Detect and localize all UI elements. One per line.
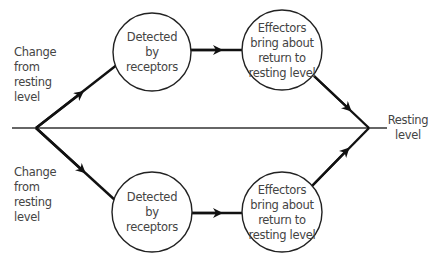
upper-effector-text: Effectors bring about return to resting … <box>240 21 324 81</box>
lower-change-label: Change from resting level <box>14 165 56 225</box>
upper-receptor-text: Detected by receptors <box>113 30 191 75</box>
diagram-canvas <box>0 0 435 262</box>
lower-effector-text: Effectors bring about return to resting … <box>240 183 324 243</box>
lower-return-arrow-icon <box>312 151 346 186</box>
lower-receptor-text: Detected by receptors <box>113 190 191 235</box>
lower-fall-arrow-icon <box>36 128 82 170</box>
upper-change-label: Change from resting level <box>14 45 56 105</box>
resting-level-label: Resting level <box>386 113 430 143</box>
